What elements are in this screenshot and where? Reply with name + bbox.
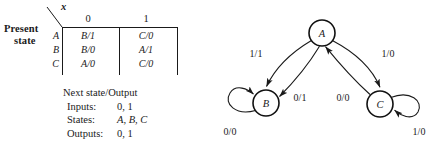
caption-row-inputs: Inputs:0, 1 bbox=[67, 100, 147, 114]
state-table-panel: Present state x 0 1 A B C B/1 C/0 B/0 A/… bbox=[0, 0, 218, 152]
table-cell-b-1: A/1 bbox=[120, 44, 172, 55]
caption-key-states: States: bbox=[67, 113, 117, 127]
table-cell-b-0: B/0 bbox=[62, 44, 114, 55]
edge-c-to-a bbox=[326, 47, 371, 95]
input-variable-label: x bbox=[61, 1, 66, 12]
edge-a-to-b bbox=[267, 41, 312, 87]
caption-key-outputs: Outputs: bbox=[67, 127, 117, 141]
caption-value-inputs: 0, 1 bbox=[117, 101, 133, 112]
table-cell-a-0: B/1 bbox=[62, 30, 114, 41]
present-state-label-line2: state bbox=[14, 35, 36, 47]
caption-row-states: States:A, B, C bbox=[67, 113, 147, 127]
column-header-1: 1 bbox=[136, 13, 156, 24]
state-diagram-panel: A B C 1/1 1/0 0/1 0/0 0/0 1/0 bbox=[218, 0, 436, 152]
column-header-0: 0 bbox=[78, 13, 98, 24]
edge-b-self-loop bbox=[228, 88, 255, 112]
caption-key-inputs: Inputs: bbox=[67, 100, 117, 114]
caption-row-outputs: Outputs:0, 1 bbox=[67, 127, 147, 141]
edge-label-b-self-loop: 0/0 bbox=[224, 126, 237, 137]
caption-title: Next state/Output bbox=[63, 86, 147, 100]
table-caption: Next state/Output Inputs:0, 1 States:A, … bbox=[55, 86, 147, 140]
node-a-label: A bbox=[318, 28, 326, 39]
edge-c-self-loop bbox=[391, 95, 420, 117]
fsm-figure: Present state x 0 1 A B C B/1 C/0 B/0 A/… bbox=[0, 0, 436, 152]
row-label-a: A bbox=[46, 30, 59, 41]
caption-value-states: A, B, C bbox=[117, 114, 147, 125]
table-cell-c-1: C/0 bbox=[120, 58, 172, 69]
table-cell-c-0: A/0 bbox=[62, 58, 114, 69]
corner-diagonal bbox=[47, 7, 62, 27]
edge-label-a-to-b: 1/1 bbox=[250, 48, 263, 59]
edge-label-c-self-loop: 1/0 bbox=[413, 126, 426, 137]
edge-label-c-to-a: 0/0 bbox=[337, 92, 350, 103]
edge-label-a-to-c: 1/0 bbox=[382, 48, 395, 59]
present-state-label-line1: Present bbox=[4, 23, 38, 35]
row-label-b: B bbox=[46, 44, 59, 55]
state-diagram-svg: A B C 1/1 1/0 0/1 0/0 0/0 1/0 bbox=[218, 0, 436, 152]
edge-b-to-a bbox=[280, 46, 320, 96]
node-b-label: B bbox=[263, 98, 270, 109]
caption-value-outputs: 0, 1 bbox=[117, 128, 133, 139]
row-label-c: C bbox=[46, 58, 59, 69]
table-cell-a-1: C/0 bbox=[120, 30, 172, 41]
edge-label-b-to-a: 0/1 bbox=[294, 92, 307, 103]
node-c-label: C bbox=[376, 99, 384, 110]
